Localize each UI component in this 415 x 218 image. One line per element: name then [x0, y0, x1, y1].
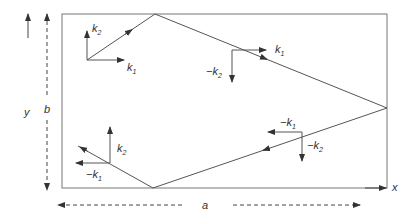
ray-arrow-2 [260, 57, 267, 60]
label-k2-bl: k2 [117, 142, 127, 156]
label-neg-k2-br: −k2 [307, 139, 323, 153]
ray-arrow-1 [125, 30, 132, 35]
label-k1-tl: k1 [127, 61, 137, 75]
label-k1-tr: k1 [275, 43, 285, 57]
y-axis-label: y [23, 106, 31, 118]
label-k2-tl: k2 [92, 22, 102, 36]
label-neg-k2-tr: −k2 [206, 65, 222, 79]
label-neg-k1-br: −k1 [280, 116, 296, 130]
label-neg-k1-bl: −k1 [86, 168, 102, 182]
waveguide-boundary [62, 14, 387, 188]
b-dimension-label: b [44, 103, 50, 115]
ray-arrow-3 [263, 148, 270, 150]
waveguide-diagram: k2 k1 k1 −k2 −k1 −k2 k2 −k1 y b x a [0, 0, 415, 218]
ray-arrow-4 [80, 147, 88, 152]
x-axis-label: x [391, 181, 398, 193]
ray-path [78, 14, 387, 188]
a-dimension-label: a [202, 199, 208, 211]
